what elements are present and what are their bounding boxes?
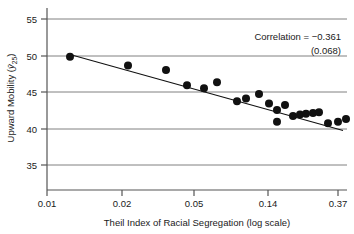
x-tick-label-0.02: 0.02 (113, 198, 132, 209)
x-tick-label-0.01: 0.01 (38, 198, 57, 209)
data-point (183, 81, 191, 89)
y-tick-label-40: 40 (26, 124, 37, 135)
data-point (324, 119, 332, 127)
data-point (255, 90, 263, 98)
y-axis-title: Upward Mobility (ȳ25) (5, 54, 18, 143)
correlation-annotation: Correlation = −0.361 (254, 31, 341, 42)
standard-error-annotation: (0.068) (311, 45, 341, 56)
y-tick-label-55: 55 (26, 14, 37, 25)
x-tick-label-0.37: 0.37 (329, 198, 348, 209)
data-point (273, 106, 281, 114)
svg-text:Upward Mobility (ȳ25): Upward Mobility (ȳ25) (5, 54, 18, 143)
data-point (315, 108, 323, 116)
data-point (289, 112, 297, 120)
data-point (242, 94, 250, 102)
data-point (233, 97, 241, 105)
data-point (281, 101, 289, 109)
y-tick-label-35: 35 (26, 160, 37, 171)
data-point (213, 78, 221, 86)
data-point (273, 118, 281, 126)
y-tick-label-45: 45 (26, 87, 37, 98)
x-tick-label-0.05: 0.05 (185, 198, 204, 209)
scatter-plot-svg: 55 50 45 40 35 0.01 0.02 0.05 0.14 0.37 … (0, 0, 354, 234)
x-axis-tick-labels: 0.01 0.02 0.05 0.14 0.37 (38, 198, 348, 209)
y-axis-title-prefix: Upward Mobility ( (5, 68, 16, 142)
y-tick-label-50: 50 (26, 51, 37, 62)
data-point (334, 118, 342, 126)
y-axis-tick-labels: 55 50 45 40 35 (26, 14, 37, 171)
chart-container: 55 50 45 40 35 0.01 0.02 0.05 0.14 0.37 … (0, 0, 354, 234)
data-point (162, 66, 170, 74)
x-tick-label-0.14: 0.14 (259, 198, 278, 209)
data-point (342, 115, 350, 123)
data-point (66, 53, 74, 61)
y-axis-ticks (41, 19, 47, 165)
data-point (124, 62, 132, 70)
y-axis-title-suffix: ) (5, 54, 16, 57)
data-point (302, 110, 310, 118)
data-point (265, 100, 273, 108)
x-axis-title: Theil Index of Racial Segregation (log s… (104, 217, 290, 228)
x-axis-ticks (47, 190, 338, 196)
data-point (200, 84, 208, 92)
